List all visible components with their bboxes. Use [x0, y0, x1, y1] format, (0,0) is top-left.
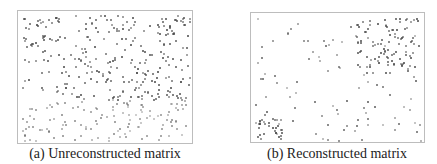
matrix-entry-dot	[48, 71, 50, 73]
matrix-entry-dot	[410, 98, 412, 100]
matrix-entry-dot	[117, 15, 119, 17]
matrix-entry-dot	[312, 51, 314, 53]
matrix-entry-dot	[57, 90, 59, 92]
matrix-entry-dot	[169, 91, 171, 93]
matrix-entry-dot	[106, 19, 108, 21]
matrix-entry-dot	[343, 129, 345, 131]
matrix-entry-dot	[56, 102, 58, 104]
matrix-entry-dot	[83, 98, 85, 100]
matrix-entry-dot	[257, 62, 259, 64]
matrix-entry-dot	[366, 66, 368, 68]
matrix-entry-dot	[182, 47, 184, 49]
matrix-entry-dot	[399, 21, 401, 23]
matrix-entry-dot	[394, 36, 396, 38]
matrix-entry-dot	[51, 22, 53, 24]
matrix-entry-dot	[181, 104, 183, 106]
matrix-entry-dot	[71, 93, 73, 95]
matrix-entry-dot	[75, 15, 77, 17]
matrix-entry-dot	[109, 89, 111, 91]
matrix-entry-dot	[169, 27, 171, 29]
matrix-entry-dot	[263, 133, 265, 135]
matrix-entry-dot	[140, 122, 142, 124]
matrix-entry-dot	[96, 70, 98, 72]
matrix-entry-dot	[89, 39, 91, 41]
matrix-entry-dot	[370, 59, 372, 61]
matrix-entry-dot	[361, 139, 363, 141]
matrix-entry-dot	[81, 101, 83, 103]
matrix-entry-dot	[289, 96, 291, 98]
matrix-entry-dot	[387, 64, 389, 66]
matrix-entry-dot	[382, 86, 384, 88]
matrix-entry-dot	[29, 115, 31, 117]
matrix-plot-reconstructed	[250, 12, 425, 143]
matrix-entry-dot	[314, 101, 316, 103]
matrix-entry-dot	[182, 21, 184, 23]
matrix-entry-dot	[395, 51, 397, 53]
matrix-entry-dot	[290, 28, 292, 30]
matrix-entry-dot	[399, 58, 401, 60]
matrix-entry-dot	[85, 23, 87, 25]
matrix-entry-dot	[346, 100, 348, 102]
matrix-entry-dot	[26, 121, 28, 123]
matrix-entry-dot	[87, 36, 89, 38]
matrix-entry-dot	[151, 80, 153, 82]
matrix-entry-dot	[117, 130, 119, 132]
matrix-entry-dot	[64, 102, 66, 104]
matrix-entry-dot	[65, 71, 67, 73]
matrix-entry-dot	[405, 54, 407, 56]
matrix-entry-dot	[159, 67, 161, 69]
matrix-entry-dot	[307, 40, 309, 42]
matrix-entry-dot	[162, 57, 164, 59]
matrix-entry-dot	[275, 132, 277, 134]
matrix-entry-dot	[264, 73, 266, 75]
matrix-entry-dot	[116, 103, 118, 105]
matrix-entry-dot	[189, 21, 191, 23]
matrix-entry-dot	[136, 81, 138, 83]
matrix-entry-dot	[393, 64, 395, 66]
matrix-entry-dot	[114, 121, 116, 123]
matrix-entry-dot	[391, 60, 393, 62]
matrix-entry-dot	[122, 90, 124, 92]
caption-reconstructed: (b) Reconstructed matrix	[247, 146, 427, 162]
matrix-entry-dot	[414, 122, 416, 124]
matrix-entry-dot	[28, 126, 30, 128]
matrix-entry-dot	[336, 109, 338, 111]
matrix-entry-dot	[29, 139, 31, 141]
matrix-entry-dot	[280, 138, 282, 140]
matrix-entry-dot	[262, 78, 264, 80]
matrix-entry-dot	[402, 36, 404, 38]
matrix-entry-dot	[46, 107, 48, 109]
matrix-entry-dot	[139, 118, 141, 120]
matrix-entry-dot	[122, 76, 124, 78]
matrix-entry-dot	[413, 76, 415, 78]
matrix-entry-dot	[50, 55, 52, 57]
matrix-entry-dot	[127, 104, 129, 106]
matrix-entry-dot	[121, 38, 123, 40]
matrix-entry-dot	[272, 127, 274, 129]
matrix-entry-dot	[113, 27, 115, 29]
matrix-entry-dot	[367, 118, 369, 120]
matrix-entry-dot	[43, 39, 45, 41]
matrix-entry-dot	[64, 121, 66, 123]
matrix-entry-dot	[126, 102, 128, 104]
matrix-entry-dot	[413, 19, 415, 21]
matrix-entry-dot	[62, 124, 64, 126]
matrix-entry-dot	[137, 96, 139, 98]
matrix-entry-dot	[415, 80, 417, 82]
matrix-entry-dot	[393, 53, 395, 55]
matrix-entry-dot	[357, 42, 359, 44]
matrix-entry-dot	[53, 118, 55, 120]
matrix-entry-dot	[158, 139, 160, 141]
matrix-entry-dot	[84, 82, 86, 84]
matrix-entry-dot	[369, 24, 371, 26]
matrix-entry-dot	[175, 107, 177, 109]
matrix-entry-dot	[165, 34, 167, 36]
matrix-entry-dot	[338, 140, 340, 142]
matrix-entry-dot	[82, 52, 84, 54]
matrix-entry-dot	[405, 45, 407, 47]
matrix-entry-dot	[280, 119, 282, 121]
matrix-entry-dot	[410, 21, 412, 23]
matrix-entry-dot	[180, 59, 182, 61]
matrix-entry-dot	[64, 37, 66, 39]
matrix-entry-dot	[110, 19, 112, 21]
